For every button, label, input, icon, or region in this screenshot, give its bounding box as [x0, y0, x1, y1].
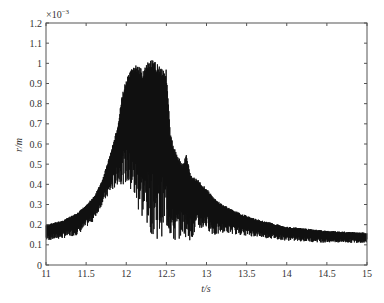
- y-tick-label: 0.8: [30, 98, 43, 109]
- x-tick-label: 12: [121, 268, 131, 279]
- signal-trace: [46, 60, 367, 242]
- y-tick-label: 0.9: [30, 78, 43, 89]
- y-axis-label: r/m: [13, 138, 24, 152]
- y-tick-label: 0: [37, 260, 42, 271]
- x-tick-label: 11.5: [78, 268, 95, 279]
- x-tick-label: 13: [202, 268, 212, 279]
- y-tick-label: 0.4: [30, 179, 43, 190]
- axes-frame: [46, 23, 367, 265]
- signal-line: [46, 60, 367, 242]
- x-tick-label: 11: [41, 268, 51, 279]
- x-tick-label: 12.5: [158, 268, 176, 279]
- y-tick-label: 0.7: [30, 118, 43, 129]
- y-tick-label: 1.1: [30, 38, 43, 49]
- y-scale-multiplier: ×10−3: [46, 8, 70, 20]
- y-tick-label: 0.2: [30, 219, 43, 230]
- x-axis-label: t/s: [201, 283, 211, 294]
- y-tick-label: 0.6: [30, 139, 43, 150]
- y-tick-label: 1: [37, 58, 42, 69]
- x-tick-label: 14: [282, 268, 292, 279]
- y-tick-label: 0.3: [30, 199, 43, 210]
- x-tick-label: 14.5: [318, 268, 336, 279]
- y-tick-label: 1.2: [30, 18, 43, 29]
- x-tick-label: 13.5: [238, 268, 256, 279]
- time-series-chart: 1111.51212.51313.51414.515 00.10.20.30.4…: [0, 0, 384, 303]
- y-tick-label: 0.5: [30, 159, 43, 170]
- x-tick-label: 15: [362, 268, 372, 279]
- y-tick-label: 0.1: [30, 239, 43, 250]
